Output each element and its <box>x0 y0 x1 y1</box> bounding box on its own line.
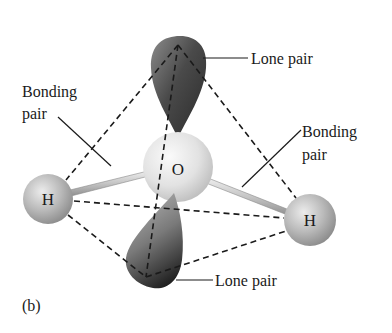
panel-label: (b) <box>22 297 41 315</box>
hydrogen-symbol-right: H <box>304 211 316 230</box>
hydrogen-symbol-left: H <box>42 190 54 209</box>
leader-left-bonding-pair <box>58 117 111 166</box>
label-left-bonding-pair-line2: pair <box>22 105 48 123</box>
label-left-bonding-pair-line1: Bonding <box>22 83 77 101</box>
bond-rod-left <box>70 171 149 196</box>
hydrogen-atom-right: H <box>284 194 336 246</box>
oxygen-symbol: O <box>172 160 184 179</box>
bond-rod-right <box>206 178 292 216</box>
oxygen-atom: O <box>143 132 213 202</box>
label-bottom-lone-pair: Lone pair <box>215 272 277 290</box>
hydrogen-atom-left: H <box>23 174 73 224</box>
label-right-bonding-pair-line1: Bonding <box>302 123 357 141</box>
top-lone-pair-lobe <box>151 36 206 138</box>
water-tetrahedral-geometry-diagram: O H H Lone pair Bonding pair Bonding pai… <box>0 0 392 333</box>
label-top-lone-pair: Lone pair <box>251 50 313 68</box>
leader-right-bonding-pair <box>242 130 301 187</box>
label-right-bonding-pair-line2: pair <box>302 146 328 164</box>
